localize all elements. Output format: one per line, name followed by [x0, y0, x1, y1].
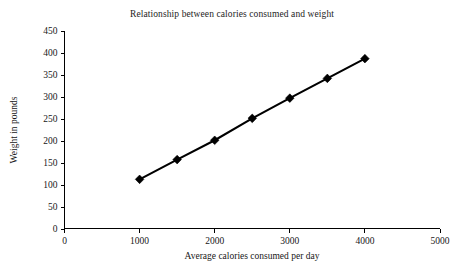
y-tick-label: 50: [48, 202, 58, 212]
scatter-line-plot: 050100150200250300350400450 010002000300…: [0, 0, 464, 271]
data-point-marker: [323, 74, 332, 83]
y-tick-label: 250: [43, 114, 58, 124]
x-tick-label: 3000: [280, 236, 299, 246]
y-tick-label: 0: [53, 224, 58, 234]
x-axis-title: Average calories consumed per day: [185, 251, 320, 261]
y-tick-label: 400: [43, 48, 58, 58]
data-point-marker: [210, 136, 219, 145]
y-tick-label: 150: [43, 158, 58, 168]
y-axis-title: Weight in pounds: [9, 96, 19, 163]
chart-container: Relationship between calories consumed a…: [0, 0, 464, 271]
x-tick-label: 2000: [205, 236, 224, 246]
x-axis-tick-labels: 010002000300040005000: [62, 236, 450, 246]
y-axis-tick-labels: 050100150200250300350400450: [43, 26, 58, 234]
x-tick-label: 5000: [431, 236, 450, 246]
data-point-marker: [361, 54, 370, 63]
data-point-marker: [135, 175, 144, 184]
y-axis-tick-marks: [61, 32, 65, 230]
x-tick-label: 4000: [355, 236, 374, 246]
data-point-marker: [248, 114, 257, 123]
y-tick-label: 300: [43, 92, 58, 102]
x-axis-tick-marks: [65, 229, 441, 234]
y-tick-label: 450: [43, 26, 58, 36]
y-tick-label: 100: [43, 180, 58, 190]
x-tick-label: 1000: [130, 236, 149, 246]
y-tick-label: 350: [43, 70, 58, 80]
y-tick-label: 200: [43, 136, 58, 146]
data-point-marker: [173, 155, 182, 164]
x-tick-label: 0: [62, 236, 67, 246]
data-point-marker: [286, 94, 295, 103]
